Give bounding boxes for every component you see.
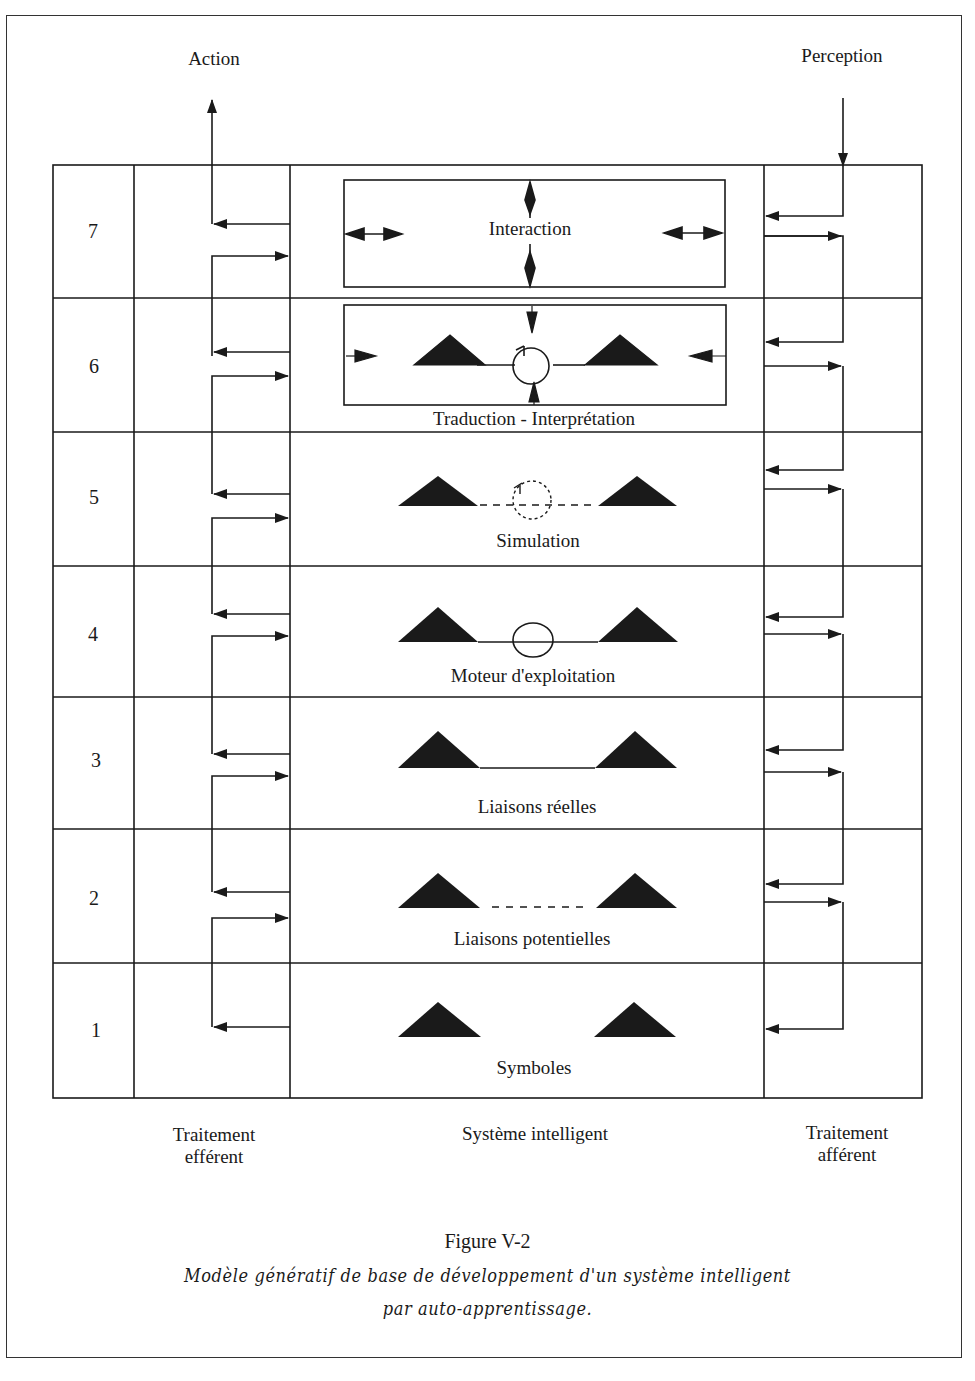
efferent-loops [212,224,290,1027]
level-label-moteur: Moteur d'exploitation [451,665,615,687]
level-label-liaisons-reelles: Liaisons réelles [478,796,597,818]
level-number-7: 7 [88,220,98,243]
system-column-label: Système intelligent [462,1123,608,1145]
efferent-label-line2: efférent [173,1146,256,1168]
level-number-4: 4 [88,623,98,646]
figure-caption-line1: Modèle génératif de base de développemen… [184,1265,791,1286]
level-label-liaisons-potentielles: Liaisons potentielles [454,928,611,950]
level-label-symboles: Symboles [497,1057,572,1079]
figure-caption-line2: par auto-apprentissage. [383,1298,593,1319]
action-label: Action [188,48,240,70]
liaisons-potentielles-symbols-icon [398,873,677,908]
level-label-traduction: Traduction - Interprétation [433,408,635,430]
afferent-label-line2: afférent [806,1144,889,1166]
level-number-3: 3 [91,749,101,772]
efferent-column-label: Traitement efférent [173,1124,256,1168]
level-label-interaction: Interaction [489,218,571,240]
liaisons-reelles-symbols-icon [398,731,677,768]
level-number-6: 6 [89,355,99,378]
moteur-symbols-icon [398,607,678,657]
efferent-label-line1: Traitement [173,1124,256,1146]
figure-title: Figure V-2 [444,1230,530,1253]
afferent-label-line1: Traitement [806,1122,889,1144]
symboles-symbols-icon [398,1002,676,1037]
traduction-symbols-icon [346,306,726,405]
level-number-1: 1 [91,1019,101,1042]
simulation-symbols-icon [398,476,677,519]
level-number-5: 5 [89,486,99,509]
level-label-simulation: Simulation [496,530,579,552]
afferent-loops [764,166,843,1029]
level-number-2: 2 [89,887,99,910]
afferent-column-label: Traitement afférent [806,1122,889,1166]
perception-label: Perception [801,45,882,67]
generative-model-diagram [0,0,975,1381]
